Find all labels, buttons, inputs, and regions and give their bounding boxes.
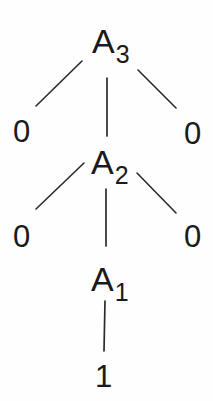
edge-mid-to-right-leaf xyxy=(137,173,176,213)
node-a3-symbol: A xyxy=(92,22,115,60)
leaf-one-bottom-text: 1 xyxy=(95,359,112,394)
leaf-zero-lower-right: 0 xyxy=(184,221,201,252)
node-a2: A2 xyxy=(91,145,128,179)
leaf-zero-upper-right: 0 xyxy=(184,118,201,149)
leaf-zero-lower-right-text: 0 xyxy=(184,219,201,254)
leaf-zero-lower-left: 0 xyxy=(13,221,30,252)
leaf-zero-upper-left-text: 0 xyxy=(13,114,30,149)
node-a2-subscript: 2 xyxy=(115,161,129,189)
edge-root-to-right-leaf xyxy=(138,70,176,108)
node-a3: A3 xyxy=(92,24,129,58)
derivation-tree-diagram: A3 0 0 A2 0 0 A1 1 xyxy=(0,0,213,401)
leaf-one-bottom: 1 xyxy=(95,361,112,392)
leaf-zero-lower-left-text: 0 xyxy=(13,219,30,254)
leaf-zero-upper-left: 0 xyxy=(13,116,30,147)
leaf-zero-upper-right-text: 0 xyxy=(184,116,201,151)
edge-low-to-bottom-leaf xyxy=(104,301,105,351)
tree-edge-layer xyxy=(0,0,213,401)
edge-mid-to-left-leaf xyxy=(36,163,84,209)
node-a1: A1 xyxy=(91,262,128,296)
node-a1-symbol: A xyxy=(91,260,114,298)
node-a1-subscript: 1 xyxy=(115,278,129,306)
edge-root-to-left-leaf xyxy=(36,61,82,106)
node-a3-subscript: 3 xyxy=(116,40,130,68)
node-a2-symbol: A xyxy=(91,143,114,181)
